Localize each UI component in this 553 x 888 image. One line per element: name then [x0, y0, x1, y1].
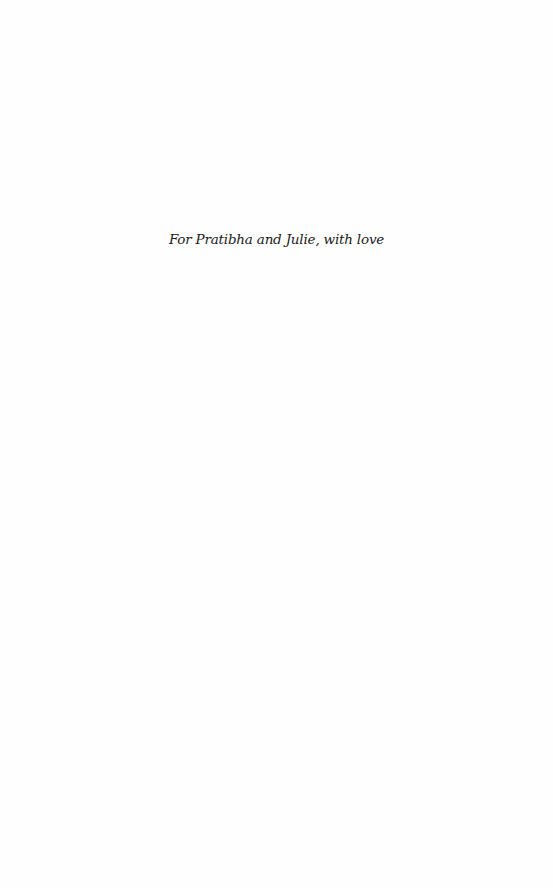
- dedication-text: For Pratibha and Julie, with love: [0, 229, 553, 249]
- book-page: For Pratibha and Julie, with love: [0, 0, 553, 888]
